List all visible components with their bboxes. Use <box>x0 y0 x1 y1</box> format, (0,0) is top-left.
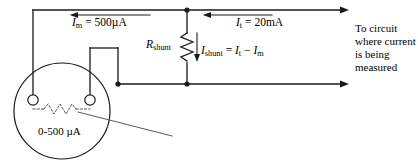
meter-range-value: 0-500 <box>38 125 64 137</box>
shunt-current-label: Ishunt = It − Im <box>201 44 264 59</box>
total-current-value: = 20 <box>242 16 266 28</box>
meter-current-label: Im = 500µA <box>72 16 127 31</box>
meter-current-unit: µA <box>112 16 127 28</box>
meter-range-label: 0-500 µA <box>38 125 81 138</box>
shunt-current-subscript: shunt <box>205 49 223 58</box>
total-current-label: It = 20mA <box>236 16 283 31</box>
meter-terminal-left <box>28 95 38 105</box>
bottom-junction-dot <box>184 81 189 86</box>
meter-body-circle <box>14 63 110 159</box>
total-current-unit: mA <box>266 16 283 28</box>
shunt-current-equals: = <box>223 44 235 56</box>
meter-range-unit: µA <box>66 125 80 137</box>
to-circuit-line-4: measured <box>355 61 416 74</box>
shunt-resistor-symbol-text: R <box>146 38 153 50</box>
shunt-current-minus: − <box>241 44 253 56</box>
shunt-resistor-symbol <box>181 33 193 61</box>
meter-terminal-right <box>85 95 95 105</box>
to-circuit-line-1: To circuit <box>355 22 416 35</box>
bottom-rail-arrowhead <box>340 81 349 88</box>
bottom-left-junction-dot <box>115 81 120 86</box>
ammeter-shunt-diagram: Im = 500µA It = 20mA Rshunt Ishunt = It … <box>0 0 418 165</box>
internal-resistance-leader-line <box>78 112 172 136</box>
to-circuit-line-2: where current <box>355 35 416 48</box>
to-circuit-annotation: To circuit where current is being measur… <box>355 22 416 74</box>
top-rail-arrowhead <box>340 7 349 14</box>
shunt-current-term2-sub: m <box>257 49 263 58</box>
meter-current-value: = 500 <box>82 16 112 28</box>
to-circuit-line-3: is being <box>355 48 416 61</box>
total-current-arrowhead <box>203 12 211 18</box>
shunt-resistor-subscript: shunt <box>153 43 171 52</box>
top-junction-dot <box>184 7 189 12</box>
shunt-resistor-label: Rshunt <box>146 38 171 53</box>
shunt-current-arrowhead <box>194 54 200 62</box>
